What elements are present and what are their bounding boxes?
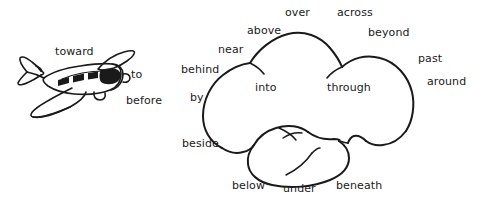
label-over: over <box>285 7 310 19</box>
label-beside: beside <box>182 138 219 150</box>
label-around: around <box>427 76 466 88</box>
label-through: through <box>327 82 371 94</box>
label-beyond: beyond <box>368 27 410 39</box>
label-to: to <box>131 69 142 81</box>
label-beneath: beneath <box>336 180 382 192</box>
label-toward: toward <box>55 46 94 58</box>
label-across: across <box>337 7 373 19</box>
label-under: under <box>283 183 316 195</box>
label-behind: behind <box>181 64 219 76</box>
label-below: below <box>232 180 265 192</box>
label-before: before <box>126 95 162 107</box>
diagram-artwork <box>0 0 491 201</box>
label-near: near <box>218 44 243 56</box>
preposition-diagram: toward to before over across above beyon… <box>0 0 491 201</box>
label-into: into <box>255 82 276 94</box>
airplane-illustration <box>18 51 134 118</box>
label-by: by <box>190 92 204 104</box>
label-above: above <box>247 25 281 37</box>
label-past: past <box>418 53 442 65</box>
